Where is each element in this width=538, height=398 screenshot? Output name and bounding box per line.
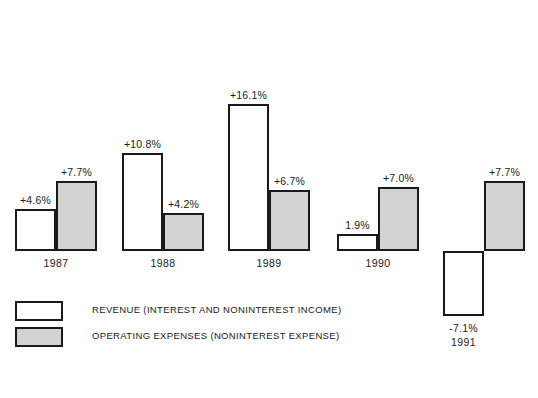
value-label-1989-revenue: +16.1% [218,89,279,101]
category-label-1987: 1987 [15,257,97,269]
value-label-1991-expense: +7.7% [474,166,535,178]
value-label-1991-revenue: -7.1% [433,322,494,334]
bar-1988-expense [163,213,204,251]
bar-1987-expense [56,181,97,251]
legend-item-expense: OPERATING EXPENSES (NONINTEREST EXPENSE) [15,326,435,352]
bar-1991-expense [484,181,525,251]
legend-swatch-expense [15,327,63,347]
bar-1990-expense [378,187,419,251]
value-label-1989-expense: +6.7% [259,175,320,187]
category-label-1991: 1991 [443,336,484,348]
category-label-1990: 1990 [337,257,419,269]
bar-1991-revenue [443,251,484,316]
legend-label-revenue: REVENUE (INTEREST AND NONINTEREST INCOME… [92,304,341,315]
value-label-1988-expense: +4.2% [153,198,214,210]
value-label-1990-expense: +7.0% [368,172,429,184]
value-label-1987-expense: +7.7% [46,166,107,178]
bar-1987-revenue [15,209,56,251]
bar-1990-revenue [337,234,378,251]
grouped-bar-chart: +4.6%+7.7%1987+10.8%+4.2%1988+16.1%+6.7%… [0,0,538,398]
category-label-1988: 1988 [122,257,204,269]
legend-item-revenue: REVENUE (INTEREST AND NONINTEREST INCOME… [15,300,435,326]
legend-swatch-revenue [15,301,63,321]
bar-1989-expense [269,190,310,251]
category-label-1989: 1989 [228,257,310,269]
chart-legend: REVENUE (INTEREST AND NONINTEREST INCOME… [15,300,435,352]
legend-label-expense: OPERATING EXPENSES (NONINTEREST EXPENSE) [92,330,340,341]
value-label-1988-revenue: +10.8% [112,138,173,150]
